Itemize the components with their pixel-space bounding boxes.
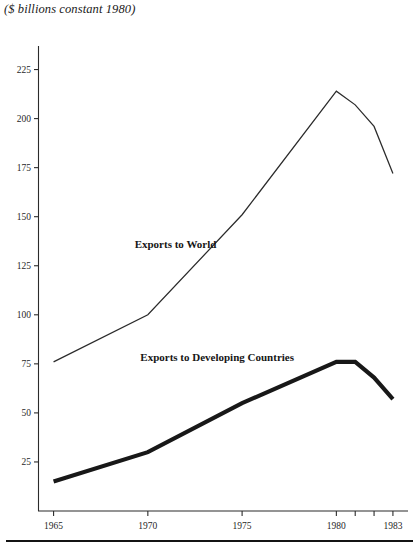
y-tick-label-50: 50 <box>22 408 32 418</box>
series-label-exports-to-world: Exports to World <box>135 238 217 250</box>
chart-series <box>54 91 393 481</box>
series-label-exports-to-developing-countries: Exports to Developing Countries <box>140 351 294 363</box>
figure-container: ($ billions constant 1980) 2550751001251… <box>0 0 419 551</box>
y-tick-label-125: 125 <box>17 261 32 271</box>
x-tick-label-1970: 1970 <box>138 521 157 531</box>
chart-series-labels: Exports to WorldExports to Developing Co… <box>135 238 295 363</box>
y-tick-label-25: 25 <box>22 457 32 467</box>
chart-axes <box>39 46 409 511</box>
x-tick-label-1980: 1980 <box>327 521 346 531</box>
axis-lines <box>39 46 409 511</box>
y-tick-label-100: 100 <box>17 310 32 320</box>
y-tick-label-175: 175 <box>17 163 32 173</box>
series-line-exports-to-developing-countries <box>54 362 393 482</box>
footer-rule <box>6 540 413 542</box>
series-line-exports-to-world <box>54 91 393 362</box>
chart-tick-labels: 2550751001251501752002251965197019751980… <box>17 65 403 531</box>
x-tick-label-1965: 1965 <box>44 521 63 531</box>
y-tick-label-200: 200 <box>17 114 32 124</box>
x-tick-label-1983: 1983 <box>383 521 402 531</box>
line-chart-plot: 2550751001251501752002251965197019751980… <box>0 0 419 551</box>
y-tick-label-75: 75 <box>22 359 32 369</box>
y-tick-label-225: 225 <box>17 65 32 75</box>
y-tick-label-150: 150 <box>17 212 32 222</box>
chart-ticks <box>34 70 393 516</box>
x-tick-label-1975: 1975 <box>233 521 252 531</box>
